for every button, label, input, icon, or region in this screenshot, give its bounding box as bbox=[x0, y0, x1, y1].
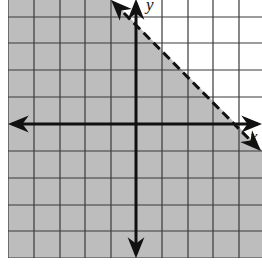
y-axis-label: y bbox=[144, 0, 154, 14]
coordinate-plane: y x bbox=[0, 0, 262, 272]
x-axis-label: x bbox=[249, 127, 258, 146]
